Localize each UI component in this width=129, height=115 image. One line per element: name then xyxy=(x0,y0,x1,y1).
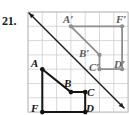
preimage-outline xyxy=(42,69,85,112)
preimage-vertex-label: A xyxy=(30,57,38,69)
preimage-vertex-dot xyxy=(40,110,45,115)
image-vertex-dot xyxy=(97,53,101,57)
image-vertex-label: B′ xyxy=(78,47,89,59)
image-vertex-label: A′ xyxy=(62,13,73,25)
preimage-vertex-label: B xyxy=(63,77,71,89)
image-vertex-label: C′ xyxy=(89,61,99,73)
figure-container: 21. A′F′D′C′B′ ABCDF xyxy=(0,0,129,115)
preimage-vertex-label: F xyxy=(30,102,39,114)
image-vertex-label: D′ xyxy=(113,58,125,70)
preimage-vertex-label: C xyxy=(87,86,95,98)
geometry-diagram: A′F′D′C′B′ ABCDF xyxy=(0,0,129,115)
preimage-vertex-label: D xyxy=(85,102,94,114)
image-vertex-label: F′ xyxy=(115,13,126,25)
preimage-vertex-dot xyxy=(40,67,45,72)
image-figure: A′F′D′C′B′ xyxy=(62,13,126,73)
image-vertex-labels: A′F′D′C′B′ xyxy=(62,13,126,73)
preimage-vertex-dot xyxy=(69,90,74,95)
